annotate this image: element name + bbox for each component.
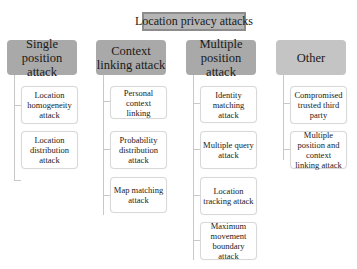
connector-line: [103, 195, 110, 196]
connector-line: [283, 75, 284, 160]
category-other: Other: [276, 40, 346, 75]
node-identity-matching-attack: Identity matching attack: [200, 86, 257, 123]
category-multiple-position-attack: Multiple position attack: [186, 40, 256, 75]
connector-line: [14, 180, 21, 181]
connector-line: [103, 149, 110, 150]
node-map-matching-attack: Map matching attack: [110, 177, 167, 213]
node-probability-distribution-attack: Probability distribution attack: [110, 131, 167, 169]
connector-line: [103, 101, 110, 102]
node-compromised-trusted-third-party: Compromised trusted third party: [290, 86, 347, 124]
category-context-linking-attack: Context linking attack: [96, 40, 166, 75]
connector-line: [283, 149, 290, 150]
node-maximum-movement-boundary-attack: Maximum movement boundary attack: [200, 222, 257, 260]
connector-line: [14, 75, 15, 180]
node-personal-context-linking: Personal context linking: [110, 86, 167, 119]
connector-line: [14, 105, 21, 106]
connector-line: [193, 103, 200, 104]
node-location-distribution-attack: Location distribution attack: [21, 131, 78, 169]
node-location-tracking-attack: Location tracking attack: [200, 177, 257, 215]
connector-line: [193, 149, 200, 150]
category-single-position-attack: Single position attack: [7, 40, 77, 75]
node-multiple-position-and-context-linking-attack: Multiple position and context linking at…: [290, 131, 347, 169]
diagram-title: Location privacy attacks: [142, 12, 246, 31]
connector-line: [283, 103, 290, 104]
node-location-homogeneity-attack: Location homogeneity attack: [21, 86, 78, 124]
connector-line: [193, 195, 200, 196]
connector-line: [103, 75, 104, 215]
connector-line: [193, 240, 200, 241]
node-multiple-query-attack: Multiple query attack: [200, 131, 257, 169]
